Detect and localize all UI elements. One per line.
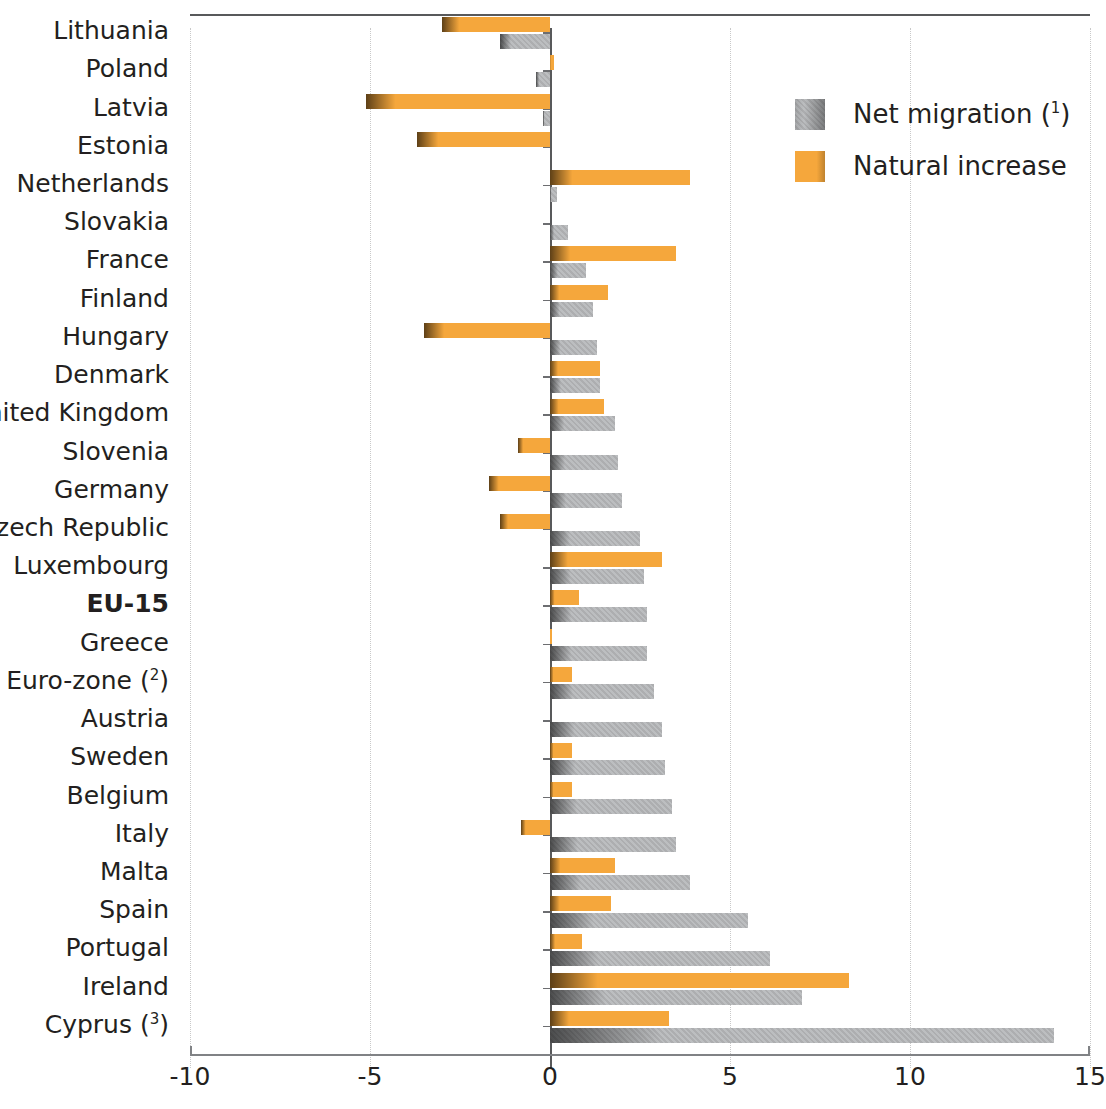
chart-row: Finland bbox=[190, 282, 1090, 320]
bar-natural-increase[interactable] bbox=[550, 285, 608, 300]
row-tick bbox=[543, 873, 550, 875]
category-label-germany: Germany bbox=[0, 475, 169, 504]
bar-net-migration[interactable] bbox=[550, 378, 600, 393]
chart-row: Germany bbox=[190, 473, 1090, 511]
bar-natural-increase[interactable] bbox=[550, 55, 554, 70]
category-label-france: France bbox=[0, 245, 169, 274]
bar-natural-increase[interactable] bbox=[489, 476, 550, 491]
chart-row: Belgium bbox=[190, 778, 1090, 816]
chart-row: Sweden bbox=[190, 740, 1090, 778]
chart-row: Euro-zone (2) bbox=[190, 664, 1090, 702]
category-label-poland: Poland bbox=[0, 54, 169, 83]
legend-item-net-migration[interactable]: Net migration (1) bbox=[795, 88, 1071, 140]
bar-natural-increase[interactable] bbox=[424, 323, 550, 338]
bar-natural-increase[interactable] bbox=[550, 170, 690, 185]
bar-net-migration[interactable] bbox=[500, 34, 550, 49]
legend-swatch-net-migration bbox=[795, 99, 825, 130]
bar-natural-increase[interactable] bbox=[521, 820, 550, 835]
row-tick bbox=[543, 605, 550, 607]
bar-natural-increase[interactable] bbox=[550, 934, 582, 949]
chart-row: Spain bbox=[190, 893, 1090, 931]
row-tick bbox=[543, 1026, 550, 1028]
bar-natural-increase[interactable] bbox=[500, 514, 550, 529]
row-tick bbox=[543, 682, 550, 684]
bar-net-migration[interactable] bbox=[550, 187, 557, 202]
chart-row: Italy bbox=[190, 817, 1090, 855]
row-tick bbox=[543, 453, 550, 455]
bar-natural-increase[interactable] bbox=[550, 246, 676, 261]
chart-row: Czech Republic bbox=[190, 511, 1090, 549]
bar-natural-increase[interactable] bbox=[366, 94, 550, 109]
chart-row: Austria bbox=[190, 702, 1090, 740]
bar-net-migration[interactable] bbox=[550, 225, 568, 240]
row-tick bbox=[543, 147, 550, 149]
x-axis-line bbox=[190, 1054, 1090, 1056]
bar-natural-increase[interactable] bbox=[550, 590, 579, 605]
bar-net-migration[interactable] bbox=[550, 416, 615, 431]
bar-net-migration[interactable] bbox=[550, 799, 672, 814]
category-label-lithuania: Lithuania bbox=[0, 16, 169, 45]
bar-net-migration[interactable] bbox=[550, 569, 644, 584]
bar-net-migration[interactable] bbox=[550, 990, 802, 1005]
bar-natural-increase[interactable] bbox=[518, 438, 550, 453]
row-tick bbox=[543, 720, 550, 722]
bar-net-migration[interactable] bbox=[550, 302, 593, 317]
bar-net-migration[interactable] bbox=[550, 684, 654, 699]
bar-natural-increase[interactable] bbox=[417, 132, 550, 147]
bar-net-migration[interactable] bbox=[550, 913, 748, 928]
legend-item-natural-increase[interactable]: Natural increase bbox=[795, 140, 1071, 192]
bar-net-migration[interactable] bbox=[550, 340, 597, 355]
bar-natural-increase[interactable] bbox=[550, 896, 611, 911]
bar-net-migration[interactable] bbox=[550, 531, 640, 546]
legend-label-natural-increase: Natural increase bbox=[853, 151, 1067, 181]
bar-net-migration[interactable] bbox=[536, 72, 550, 87]
chart-row: Denmark bbox=[190, 358, 1090, 396]
bar-net-migration[interactable] bbox=[543, 111, 550, 126]
bar-natural-increase[interactable] bbox=[550, 858, 615, 873]
category-label-latvia: Latvia bbox=[0, 93, 169, 122]
bar-natural-increase[interactable] bbox=[550, 667, 572, 682]
bar-natural-increase[interactable] bbox=[550, 399, 604, 414]
bar-natural-increase[interactable] bbox=[550, 782, 572, 797]
bar-net-migration[interactable] bbox=[550, 263, 586, 278]
bar-natural-increase[interactable] bbox=[550, 743, 572, 758]
bar-net-migration[interactable] bbox=[550, 722, 662, 737]
bar-net-migration[interactable] bbox=[550, 455, 618, 470]
bar-net-migration[interactable] bbox=[550, 951, 770, 966]
category-label-czech-republic: Czech Republic bbox=[0, 513, 169, 542]
category-label-hungary: Hungary bbox=[0, 322, 169, 351]
row-tick bbox=[543, 414, 550, 416]
chart-row: Cyprus (3) bbox=[190, 1008, 1090, 1046]
bar-net-migration[interactable] bbox=[550, 760, 665, 775]
category-label-sweden: Sweden bbox=[0, 742, 169, 771]
category-label-netherlands: Netherlands bbox=[0, 169, 169, 198]
gridline-15 bbox=[1090, 28, 1092, 1068]
row-tick bbox=[543, 949, 550, 951]
row-tick bbox=[543, 644, 550, 646]
chart-row: Ireland bbox=[190, 970, 1090, 1008]
row-tick bbox=[543, 835, 550, 837]
bar-natural-increase[interactable] bbox=[442, 17, 550, 32]
row-tick bbox=[543, 376, 550, 378]
bar-net-migration[interactable] bbox=[550, 493, 622, 508]
category-label-spain: Spain bbox=[0, 895, 169, 924]
bar-natural-increase[interactable] bbox=[550, 552, 662, 567]
bar-natural-increase[interactable] bbox=[550, 973, 849, 988]
category-label-euro-zone: Euro-zone (2) bbox=[0, 666, 169, 695]
bar-net-migration[interactable] bbox=[550, 1028, 1054, 1043]
chart-row: EU-15 bbox=[190, 587, 1090, 625]
x-tick-label-15: 15 bbox=[1074, 1062, 1106, 1091]
bar-natural-increase[interactable] bbox=[550, 629, 552, 644]
bar-natural-increase[interactable] bbox=[550, 361, 600, 376]
x-tick-label-10: 10 bbox=[894, 1062, 926, 1091]
row-tick bbox=[543, 185, 550, 187]
bar-natural-increase[interactable] bbox=[550, 1011, 669, 1026]
x-tick-label-0: 0 bbox=[542, 1062, 558, 1091]
bar-net-migration[interactable] bbox=[550, 607, 647, 622]
bar-net-migration[interactable] bbox=[550, 646, 647, 661]
bar-net-migration[interactable] bbox=[550, 875, 690, 890]
bar-net-migration[interactable] bbox=[550, 837, 676, 852]
legend: Net migration (1) Natural increase bbox=[795, 88, 1071, 192]
category-label-luxembourg: Luxembourg bbox=[0, 551, 169, 580]
